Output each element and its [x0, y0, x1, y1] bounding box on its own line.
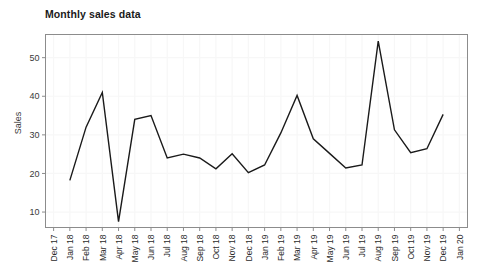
x-axis-tick-label: Nov 19: [422, 234, 432, 261]
x-axis-tick-label: Apr 18: [114, 234, 124, 259]
x-axis-tick-label: Dec 18: [244, 234, 254, 261]
x-axis-tick-label: Dec 19: [438, 234, 448, 261]
x-axis-tick-label: Feb 19: [276, 234, 286, 261]
sales-line-series: [70, 41, 443, 222]
y-axis-tick-label: 10: [29, 207, 39, 217]
x-axis-tick-label: Jan 18: [65, 234, 75, 260]
x-axis-tick-label: Oct 19: [406, 234, 416, 259]
x-axis-tick-label: Dec 17: [49, 234, 59, 261]
y-axis-tick-label: 30: [29, 130, 39, 140]
x-axis-tick-label: Jun 18: [146, 234, 156, 260]
plot-svg: 1020304050 Dec 17Jan 18Feb 18Mar 18Apr 1…: [0, 0, 491, 280]
grid-lines: [46, 35, 468, 228]
x-axis-ticks: Dec 17Jan 18Feb 18Mar 18Apr 18May 18Jun …: [49, 228, 465, 263]
monthly-sales-chart: Monthly sales data Sales 1020304050 Dec …: [0, 0, 491, 280]
x-axis-tick-label: Mar 18: [98, 234, 108, 261]
x-axis-tick-label: Apr 19: [309, 234, 319, 259]
y-axis-tick-label: 50: [29, 53, 39, 63]
x-axis-tick-label: Nov 18: [227, 234, 237, 261]
x-axis-tick-label: Jan 20: [455, 234, 465, 260]
y-axis-tick-label: 40: [29, 91, 39, 101]
x-axis-tick-label: May 18: [130, 234, 140, 262]
y-axis-ticks: 1020304050: [29, 53, 45, 217]
x-axis-tick-label: Aug 18: [179, 234, 189, 261]
plot-frame: [46, 35, 468, 228]
x-axis-tick-label: Jul 19: [357, 234, 367, 257]
x-axis-tick-label: May 19: [325, 234, 335, 262]
y-axis-tick-label: 20: [29, 169, 39, 179]
x-axis-tick-label: Sep 18: [195, 234, 205, 261]
x-axis-tick-label: Jun 19: [341, 234, 351, 260]
x-axis-tick-label: Jul 18: [162, 234, 172, 257]
x-axis-tick-label: Oct 18: [211, 234, 221, 259]
x-axis-tick-label: Sep 19: [390, 234, 400, 261]
x-axis-tick-label: Jan 19: [260, 234, 270, 260]
x-axis-tick-label: Feb 18: [81, 234, 91, 261]
x-axis-tick-label: Mar 19: [292, 234, 302, 261]
x-axis-tick-label: Aug 19: [373, 234, 383, 261]
